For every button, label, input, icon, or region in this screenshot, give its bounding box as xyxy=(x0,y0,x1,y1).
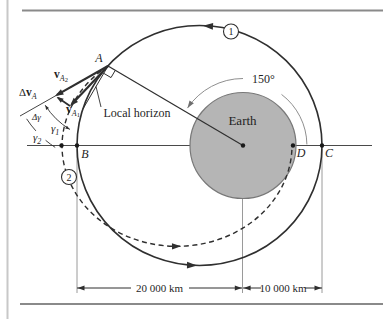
delta-gamma-label: Δγ xyxy=(31,112,41,122)
earth-center-dot xyxy=(241,143,245,147)
gamma-2-arc-lower xyxy=(46,140,56,147)
orbit-1-badge: 1 xyxy=(224,24,239,39)
v-a2-label: vA2 xyxy=(54,68,68,83)
point-D-label: D xyxy=(296,146,306,160)
orbit-1-arrow-bottom xyxy=(187,262,197,269)
point-C-label: C xyxy=(325,146,334,160)
local-horizon-pointer-line xyxy=(96,87,101,108)
dim-arrow-left-outer xyxy=(78,286,85,291)
true-anomaly-label: 150° xyxy=(252,72,275,86)
velocity-vector-v-a1 xyxy=(72,66,108,104)
dim-label-10000: 10 000 km xyxy=(259,282,307,294)
v-a1-label: vA1 xyxy=(66,103,80,118)
local-horizon-label: Local horizon xyxy=(104,106,171,120)
orbit-1-arrow-top xyxy=(203,22,213,29)
dimension-10000km: 10 000 km xyxy=(243,282,322,294)
orbit-2-badge: 2 xyxy=(62,170,77,185)
dimension-20000km: 20 000 km xyxy=(77,282,242,294)
right-angle-marker xyxy=(104,70,116,77)
figure-page: Earth 150° Local horizon Δγ γ1 γ2 ΔvA vA… xyxy=(0,0,383,319)
point-B-label: B xyxy=(81,147,89,161)
orbit-2-arrow-bottom xyxy=(172,243,181,249)
orbit-2-apogee-dot xyxy=(59,143,63,147)
delta-v-label: ΔvA xyxy=(19,86,37,101)
point-D-dot xyxy=(291,143,295,147)
point-A-label: A xyxy=(94,51,103,65)
dim-label-20000: 20 000 km xyxy=(136,282,184,294)
dim-arrow-right-inner xyxy=(244,286,251,291)
orbit-2-badge-number: 2 xyxy=(67,172,72,183)
gamma-1-label: γ1 xyxy=(51,122,59,137)
gamma-2-label: γ2 xyxy=(33,131,41,146)
orbit-diagram: Earth 150° Local horizon Δγ γ1 γ2 ΔvA vA… xyxy=(0,0,383,319)
dim-arrow-right-outer xyxy=(315,286,322,291)
dim-arrow-left-inner xyxy=(235,286,242,291)
earth-label: Earth xyxy=(228,113,257,128)
point-C-dot xyxy=(320,143,324,147)
point-B-dot xyxy=(75,143,79,147)
orbit-1-badge-number: 1 xyxy=(229,26,234,37)
